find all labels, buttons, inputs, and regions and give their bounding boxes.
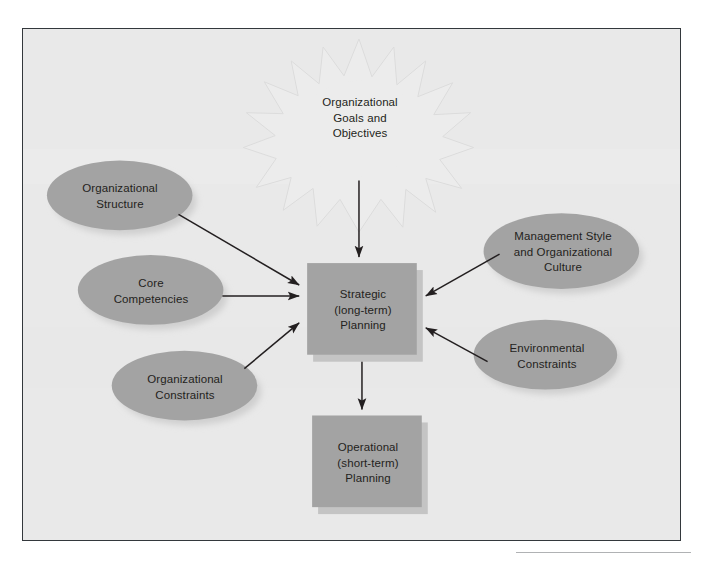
ellipse-shape	[78, 255, 224, 325]
rect-shape	[307, 263, 417, 355]
diagram-canvas	[23, 29, 680, 540]
bottom-horizontal-rule	[516, 552, 691, 553]
node-organizational-constraints	[112, 351, 258, 421]
rect-shape	[312, 415, 422, 507]
ellipse-shape	[47, 160, 193, 230]
node-operational-planning	[312, 415, 428, 514]
figure-frame: Organizational Goals and Objectives Orga…	[22, 28, 681, 541]
node-organizational-structure	[47, 160, 193, 230]
ellipse-shape	[474, 320, 618, 390]
node-strategic-planning	[307, 263, 423, 362]
node-management-style	[484, 213, 640, 289]
ellipse-shape	[484, 213, 640, 289]
node-environmental-constraints	[474, 320, 618, 390]
ellipse-shape	[112, 351, 258, 421]
node-core-competencies	[78, 255, 224, 325]
